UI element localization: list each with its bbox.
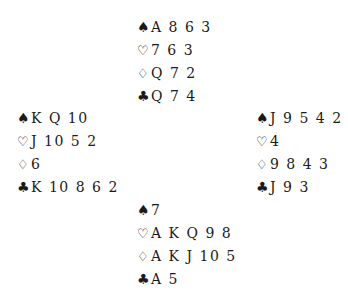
east-diamonds: ♢9 8 4 3 <box>256 153 343 176</box>
east-spades-cards: J 9 5 4 2 <box>270 110 343 126</box>
north-spades-cards: A 8 6 3 <box>151 19 212 35</box>
south-spades: ♠7 <box>137 199 237 222</box>
diamond-icon: ♢ <box>137 245 149 268</box>
west-diamonds-cards: 6 <box>31 156 41 172</box>
north-clubs-cards: Q 7 4 <box>151 88 197 104</box>
club-icon: ♣ <box>17 176 29 199</box>
north-hand: ♠A 8 6 3 ♡7 6 3 ♢Q 7 2 ♣Q 7 4 <box>137 16 212 108</box>
club-icon: ♣ <box>137 85 149 108</box>
west-diamonds: ♢6 <box>17 153 119 176</box>
heart-icon: ♡ <box>137 222 149 245</box>
east-spades: ♠J 9 5 4 2 <box>256 107 343 130</box>
east-clubs: ♣J 9 3 <box>256 176 343 199</box>
south-diamonds-cards: A K J 10 5 <box>151 248 237 264</box>
spade-icon: ♠ <box>137 16 149 39</box>
west-clubs-cards: K 10 8 6 2 <box>31 179 119 195</box>
west-hearts: ♡J 10 5 2 <box>17 130 119 153</box>
west-hearts-cards: J 10 5 2 <box>31 133 98 149</box>
north-diamonds-cards: Q 7 2 <box>151 65 197 81</box>
west-spades: ♠K Q 10 <box>17 107 119 130</box>
spade-icon: ♠ <box>256 107 268 130</box>
south-spades-cards: 7 <box>151 202 161 218</box>
spade-icon: ♠ <box>137 199 149 222</box>
south-hearts: ♡A K Q 9 8 <box>137 222 237 245</box>
south-hearts-cards: A K Q 9 8 <box>151 225 232 241</box>
east-clubs-cards: J 9 3 <box>270 179 310 195</box>
club-icon: ♣ <box>137 268 149 291</box>
east-hearts-cards: 4 <box>270 133 280 149</box>
club-icon: ♣ <box>256 176 268 199</box>
diamond-icon: ♢ <box>17 153 29 176</box>
east-diamonds-cards: 9 8 4 3 <box>270 156 329 172</box>
west-spades-cards: K Q 10 <box>31 110 89 126</box>
west-clubs: ♣K 10 8 6 2 <box>17 176 119 199</box>
south-clubs: ♣A 5 <box>137 268 237 291</box>
diamond-icon: ♢ <box>137 62 149 85</box>
east-hand: ♠J 9 5 4 2 ♡4 ♢9 8 4 3 ♣J 9 3 <box>256 107 343 199</box>
heart-icon: ♡ <box>256 130 268 153</box>
south-hand: ♠7 ♡A K Q 9 8 ♢A K J 10 5 ♣A 5 <box>137 199 237 291</box>
south-diamonds: ♢A K J 10 5 <box>137 245 237 268</box>
north-spades: ♠A 8 6 3 <box>137 16 212 39</box>
east-hearts: ♡4 <box>256 130 343 153</box>
heart-icon: ♡ <box>17 130 29 153</box>
north-diamonds: ♢Q 7 2 <box>137 62 212 85</box>
south-clubs-cards: A 5 <box>151 271 179 287</box>
spade-icon: ♠ <box>17 107 29 130</box>
north-hearts: ♡7 6 3 <box>137 39 212 62</box>
north-clubs: ♣Q 7 4 <box>137 85 212 108</box>
west-hand: ♠K Q 10 ♡J 10 5 2 ♢6 ♣K 10 8 6 2 <box>17 107 119 199</box>
heart-icon: ♡ <box>137 39 149 62</box>
diamond-icon: ♢ <box>256 153 268 176</box>
north-hearts-cards: 7 6 3 <box>151 42 194 58</box>
